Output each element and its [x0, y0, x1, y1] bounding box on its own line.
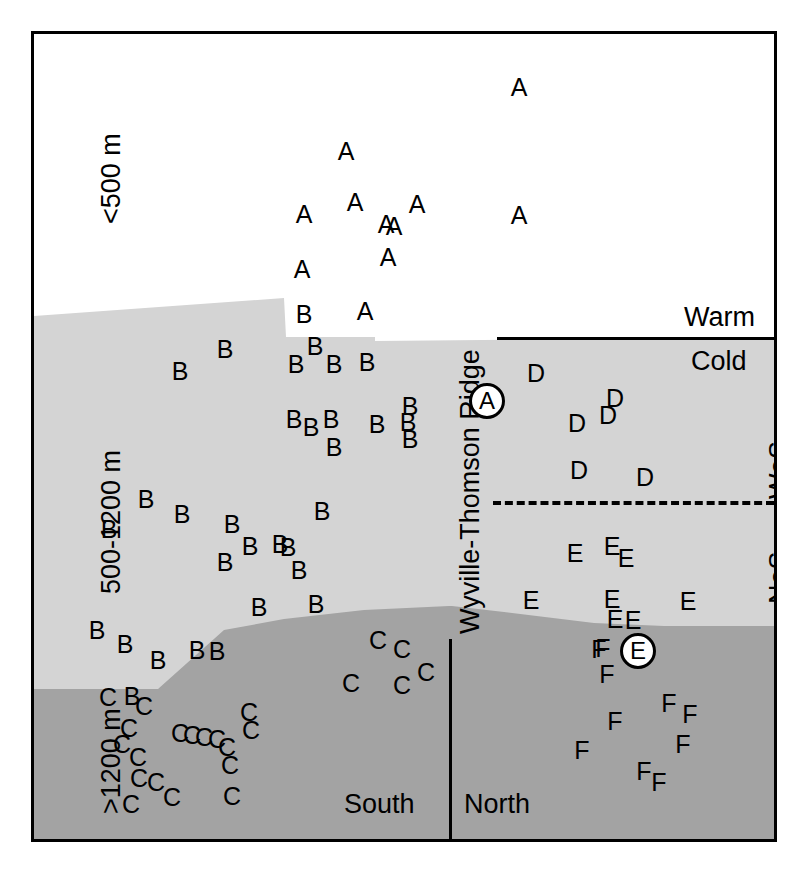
diagram-frame: <500 m 500-1200 m >1200 m Wyville-Thomso… [31, 31, 777, 842]
data-marker-f: F [607, 709, 622, 734]
data-marker-b: B [189, 638, 206, 663]
data-marker-b: B [217, 337, 234, 362]
data-marker-f: F [574, 738, 589, 763]
data-marker-c: C [369, 628, 387, 653]
data-marker-f: F [599, 662, 614, 687]
data-marker-c: C [242, 718, 260, 743]
data-marker-a: A [386, 214, 403, 239]
data-marker-f: F [591, 637, 606, 662]
data-marker-f: F [675, 732, 690, 757]
data-marker-c: C [393, 673, 411, 698]
data-marker-b: B [402, 394, 419, 419]
cold-label: Cold [691, 346, 747, 377]
data-marker-a: A [347, 190, 364, 215]
data-marker-b: B [209, 639, 226, 664]
data-marker-b: B [307, 334, 324, 359]
nos-label: NoS [764, 551, 774, 604]
data-marker-b: B [150, 648, 167, 673]
data-marker-d: D [527, 361, 545, 386]
data-marker-a: A [511, 75, 528, 100]
data-marker-e: E [607, 607, 624, 632]
data-marker-e: E [618, 546, 635, 571]
data-marker-f: F [661, 691, 676, 716]
data-marker-b: B [101, 517, 118, 542]
data-marker-b: B [174, 502, 191, 527]
data-marker-f: F [682, 702, 697, 727]
data-marker-b: B [296, 302, 313, 327]
data-marker-b: B [117, 632, 134, 657]
data-marker-c: C [393, 637, 411, 662]
data-marker-b: B [138, 487, 155, 512]
data-marker-b: B [402, 427, 419, 452]
depth-label-shallow: <500 m [96, 133, 127, 224]
data-marker-c: C [99, 685, 117, 710]
data-marker-f: F [651, 770, 666, 795]
data-marker-d: D [570, 458, 588, 483]
warm-label: Warm [684, 302, 755, 333]
data-marker-a: A [409, 192, 426, 217]
data-marker-c: C [122, 792, 140, 817]
data-marker-b: B [359, 350, 376, 375]
circled-marker-e: E [620, 633, 656, 669]
data-marker-b: B [326, 435, 343, 460]
data-marker-a: A [338, 139, 355, 164]
data-marker-b: B [286, 407, 303, 432]
data-marker-b: B [291, 558, 308, 583]
data-marker-a: A [357, 299, 374, 324]
data-marker-a: A [294, 257, 311, 282]
circled-marker-a: A [469, 383, 505, 419]
north-label: North [464, 789, 530, 820]
data-marker-b: B [288, 352, 305, 377]
wos-nos-dashed-divider [493, 501, 774, 505]
data-marker-d: D [568, 411, 586, 436]
data-marker-b: B [224, 512, 241, 537]
data-marker-b: B [172, 359, 189, 384]
data-marker-b: B [326, 352, 343, 377]
south-north-divider [449, 639, 452, 839]
data-marker-b: B [251, 595, 268, 620]
data-marker-c: C [417, 660, 435, 685]
data-marker-b: B [314, 499, 331, 524]
data-marker-b: B [303, 415, 320, 440]
data-marker-e: E [680, 589, 697, 614]
data-marker-b: B [242, 534, 259, 559]
data-marker-f: F [636, 759, 651, 784]
data-marker-d: D [636, 465, 654, 490]
data-marker-b: B [89, 618, 106, 643]
data-marker-c: C [163, 785, 181, 810]
data-marker-a: A [511, 203, 528, 228]
data-marker-e: E [625, 608, 642, 633]
south-label: South [344, 789, 415, 820]
warm-cold-divider [497, 337, 774, 340]
data-marker-d: D [606, 386, 624, 411]
data-marker-b: B [369, 412, 386, 437]
diagram-plot: <500 m 500-1200 m >1200 m Wyville-Thomso… [34, 34, 774, 839]
data-marker-c: C [223, 784, 241, 809]
data-marker-a: A [296, 202, 313, 227]
data-marker-a: A [380, 245, 397, 270]
data-marker-c: C [130, 766, 148, 791]
figure-canvas: <500 m 500-1200 m >1200 m Wyville-Thomso… [0, 0, 808, 873]
data-marker-b: B [217, 550, 234, 575]
data-marker-e: E [567, 541, 584, 566]
data-marker-c: C [342, 671, 360, 696]
data-marker-e: E [523, 588, 540, 613]
data-marker-b: B [323, 407, 340, 432]
data-marker-c: C [221, 753, 239, 778]
data-marker-b: B [308, 592, 325, 617]
wos-label: WoS [764, 441, 774, 499]
